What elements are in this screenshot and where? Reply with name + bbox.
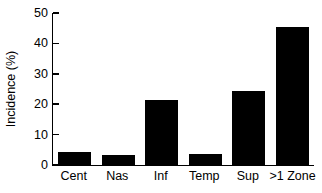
y-axis-tick-label: 30 xyxy=(34,66,48,82)
x-axis-labels: CentNasInfTempSup>1 Zone xyxy=(52,167,313,187)
x-axis-label: >1 Zone xyxy=(270,167,314,185)
x-axis-label: Nas xyxy=(96,167,140,185)
y-axis-tick-label: 50 xyxy=(34,5,48,21)
y-axis-tick-label: 10 xyxy=(34,127,48,143)
x-axis-label: Inf xyxy=(139,167,183,185)
x-axis-label: Temp xyxy=(183,167,227,185)
bar xyxy=(276,27,309,165)
plot-area: 01020304050 xyxy=(52,13,314,166)
x-axis-label: Cent xyxy=(52,167,96,185)
bar xyxy=(145,100,178,165)
bar xyxy=(189,154,222,165)
bar xyxy=(232,91,265,165)
y-axis-tick-label: 0 xyxy=(41,157,48,173)
y-axis-tick-label: 20 xyxy=(34,96,48,112)
bar xyxy=(102,155,135,165)
x-axis-label: Sup xyxy=(226,167,270,185)
y-axis-tick-label: 40 xyxy=(34,35,48,51)
y-axis-title: Incidence (%) xyxy=(4,13,18,165)
bars-group xyxy=(53,13,314,165)
bar-chart: Incidence (%) 01020304050 CentNasInfTemp… xyxy=(0,0,322,193)
bar xyxy=(58,152,91,165)
